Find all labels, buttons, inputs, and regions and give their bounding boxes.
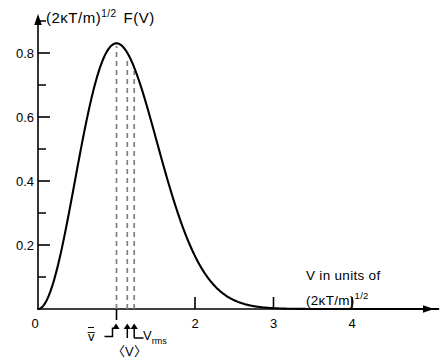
annotation-most-probable-speed: v̅ bbox=[88, 329, 95, 344]
origin-label: 0 bbox=[26, 316, 44, 331]
x-axis-caption-line2-exponent: 1/2 bbox=[355, 290, 369, 301]
y-tick-label-0.2: 0.2 bbox=[0, 238, 34, 253]
overbar bbox=[88, 327, 94, 328]
x-axis-caption-line2: (2κT/m)1/2 bbox=[306, 286, 380, 311]
annotation-rms-speed: Vrms bbox=[143, 328, 167, 346]
figure-canvas: (2κT/m)1/2F(V) V in units of (2κT/m)1/2 … bbox=[0, 0, 441, 362]
x-tick-label-3: 3 bbox=[265, 316, 283, 331]
y-tick-label-0.4: 0.4 bbox=[0, 174, 34, 189]
annotation-most-probable-speed-text: v̅ bbox=[88, 329, 95, 344]
marker-guides bbox=[117, 46, 135, 309]
x-tick-label-4: 4 bbox=[343, 316, 361, 331]
annotation-most-probable-speed-label: v̅ bbox=[88, 329, 95, 344]
y-axis-title-exponent: 1/2 bbox=[101, 8, 116, 19]
y-minor-ticks bbox=[38, 21, 46, 277]
annotation-mean-speed: 〈V〉 bbox=[112, 341, 147, 360]
y-axis-title: (2κT/m)1/2F(V) bbox=[46, 8, 155, 26]
annotation-arrows bbox=[105, 324, 144, 339]
annotation-rms-speed-subscript: rms bbox=[152, 336, 167, 346]
annotation-rms-speed-base: V bbox=[143, 328, 152, 343]
x-axis-caption-line1: V in units of bbox=[306, 266, 380, 286]
y-tick-label-0.6: 0.6 bbox=[0, 110, 34, 125]
y-axis-title-function: F(V) bbox=[124, 9, 155, 26]
y-tick-label-0.8: 0.8 bbox=[0, 46, 34, 61]
x-axis-caption: V in units of (2κT/m)1/2 bbox=[306, 266, 380, 311]
x-tick-label-2: 2 bbox=[186, 316, 204, 331]
y-axis bbox=[34, 14, 42, 309]
x-axis-caption-line2-base: (2κT/m) bbox=[306, 293, 355, 308]
y-axis-title-base: (2κT/m) bbox=[46, 9, 101, 26]
